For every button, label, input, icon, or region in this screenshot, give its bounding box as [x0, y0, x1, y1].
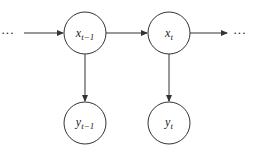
left-ellipsis: ···: [1, 25, 14, 40]
node-x-curr: xt: [148, 12, 190, 54]
node-y-prev-sub: t−1: [81, 121, 94, 131]
node-x-prev: xt−1: [64, 12, 106, 54]
node-x-prev-sub: t−1: [81, 32, 94, 42]
hmm-diagram: ··· ··· xt−1 xt yt−1 yt: [0, 0, 254, 147]
node-y-prev: yt−1: [64, 102, 106, 144]
node-y-curr: yt: [148, 102, 190, 144]
right-ellipsis: ···: [233, 25, 246, 40]
